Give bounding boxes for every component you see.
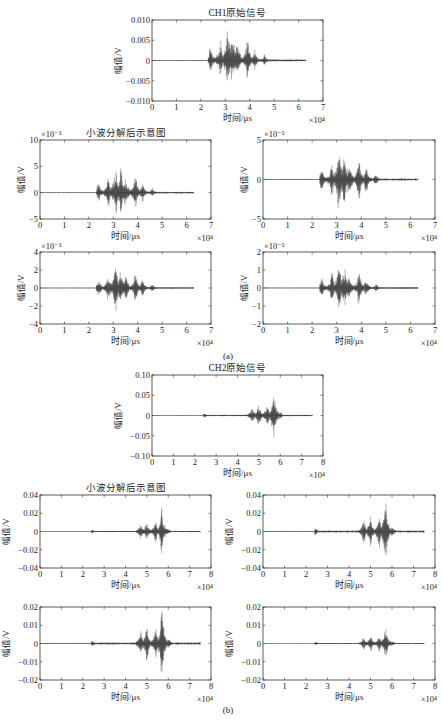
y-tick-label: 0.01	[246, 620, 261, 630]
subcaption-a: (a)	[208, 351, 248, 361]
x-tick-label: 1	[282, 681, 286, 691]
x-tick-label: 8	[433, 681, 437, 691]
x-tick-label: 2	[304, 681, 308, 691]
x-tick-label: 7	[411, 681, 415, 691]
x-tick-label: 6	[390, 681, 394, 691]
x-tick-label: 4	[347, 681, 352, 691]
x-tick-label: 3	[325, 681, 329, 691]
y-tick-label: 0	[257, 639, 261, 649]
subplot-b-d4: 012345678−0.02−0.0100.010.02时间/μs×10⁴幅值/…	[0, 0, 443, 724]
y-axis-label: 幅值/V	[224, 629, 234, 656]
x-tick-label: 0	[261, 681, 265, 691]
y-tick-label: −0.02	[241, 675, 261, 685]
x-axis-multiplier: ×10⁴	[421, 694, 437, 704]
x-axis-label: 时间/μs	[335, 691, 364, 702]
y-tick-label: 0.02	[246, 602, 261, 612]
y-tick-label: −0.01	[241, 657, 261, 667]
waveform-trace	[263, 629, 435, 656]
subcaption-b: (b)	[208, 705, 248, 715]
figure-caption-cut	[40, 716, 400, 724]
x-tick-label: 5	[368, 681, 372, 691]
